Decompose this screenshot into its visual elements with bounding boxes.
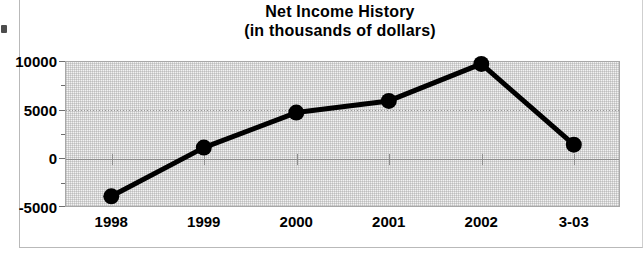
- y-axis-label-0: 0: [49, 150, 57, 167]
- y-tick-5000: [59, 110, 65, 111]
- y-tick-minor-7500: [61, 85, 65, 86]
- chart-title: Net Income History: [60, 2, 620, 21]
- x-axis-label-2002: 2002: [465, 213, 498, 230]
- x-axis-label-2000: 2000: [280, 213, 313, 230]
- data-point-1999: 1999: 1100: [196, 140, 212, 156]
- data-point-3-03: 3-03: 1400: [566, 137, 582, 153]
- y-tick-minor--2500: [61, 183, 65, 184]
- data-point-1998: 1998: -3900: [103, 188, 119, 204]
- data-series-layer: 1998: -39001999: 11002000: 47002001: 590…: [65, 61, 620, 207]
- net-income-markers: 1998: -39001999: 11002000: 47002001: 590…: [103, 56, 582, 204]
- chart-title-block: Net Income History (in thousands of doll…: [60, 2, 620, 40]
- net-income-history-figure: Net Income History (in thousands of doll…: [0, 0, 644, 262]
- scan-speckle-artifact: [1, 25, 7, 33]
- x-axis-label-1999: 1999: [187, 213, 220, 230]
- y-axis-label-10000: 10000: [15, 53, 57, 70]
- y-tick--5000: [59, 206, 65, 207]
- x-axis-label-1998: 1998: [95, 213, 128, 230]
- data-point-2001: 2001: 5900: [381, 93, 397, 109]
- y-tick-minor-2500: [61, 134, 65, 135]
- data-point-2000: 2000: 4700: [288, 105, 304, 121]
- y-axis-label-5000: 5000: [24, 101, 57, 118]
- x-axis-label-2001: 2001: [372, 213, 405, 230]
- y-axis-label--5000: -5000: [19, 199, 57, 216]
- y-tick-0: [59, 158, 65, 159]
- net-income-line: [111, 64, 574, 196]
- chart-subtitle: (in thousands of dollars): [60, 21, 620, 40]
- x-axis-label-3-03: 3-03: [559, 213, 589, 230]
- plot-wrapper: 1998: -39001999: 11002000: 47002001: 590…: [65, 61, 620, 207]
- y-tick-10000: [59, 61, 65, 62]
- data-point-2002: 2002: 9700: [473, 56, 489, 72]
